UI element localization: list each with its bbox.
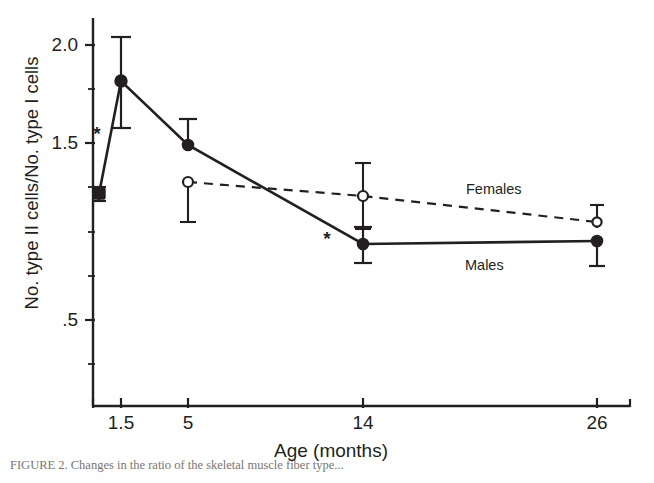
males-point-5mo [182,139,193,150]
males-point-26mo [591,235,602,246]
y-tick-label-2_0: 2.0 [32,34,78,56]
males-error-bars [93,37,605,266]
asterisk-marker-2: * [323,228,331,249]
females-point-26mo [592,217,601,226]
females-markers [183,177,602,227]
x-tick-label-26: 26 [577,412,617,434]
figure-panel: * * No. type II cells/No. type I cells A… [0,0,654,483]
significance-markers: * * [93,123,331,249]
females-error-bars [180,163,604,229]
x-tick-label-14: 14 [343,412,383,434]
males-line [99,81,597,244]
males-point-14mo [357,238,368,249]
figure-caption: FIGURE 2. Changes in the ratio of the sk… [10,458,644,474]
axis-lines [93,18,630,406]
asterisk-marker-1: * [93,123,101,144]
series-females [180,163,604,229]
males-point-0mo [94,188,105,199]
x-tick-label-5: 5 [168,412,208,434]
males-markers [94,75,603,250]
y-tick-label-0_5: .5 [32,309,78,331]
y-tick-label-1_5: 1.5 [32,132,78,154]
series-males [93,37,605,266]
females-line [188,182,597,222]
x-tick-label-1_5: 1.5 [96,412,146,434]
y-axis-label: No. type II cells/No. type I cells [21,18,43,348]
series-label-females: Females [466,181,522,197]
females-point-14mo [358,191,368,201]
chart-canvas: * * [0,0,654,483]
females-point-5mo [183,177,193,187]
males-point-1_5mo [115,75,127,87]
series-label-males: Males [465,257,504,273]
